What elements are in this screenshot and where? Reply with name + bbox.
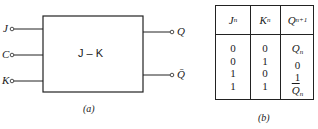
cell-qn1: Qn: [292, 42, 303, 59]
cell-qn1-bar-main: Q: [292, 84, 300, 96]
header-qn1: Qn+1: [280, 6, 315, 34]
input-label-k: K: [2, 75, 9, 86]
cell-kn: 0: [262, 42, 268, 55]
output-label-q-bar: Q̄: [177, 69, 185, 80]
cell-qn1-sub: n: [300, 48, 304, 56]
output-label-q: Q: [177, 26, 185, 37]
column-qn1: Qn 0 1 Qn: [280, 42, 315, 100]
cell-kn: 1: [262, 55, 268, 68]
cell-qn1-complement: Qn: [292, 84, 303, 101]
header-qn1-main: Q: [288, 14, 296, 26]
truth-table: Jn Kn Qn+1 0 0 1 1 0 1 0 1 Qn 0 1 Qn: [215, 5, 314, 100]
header-kn-main: K: [260, 14, 267, 26]
cell-kn: 1: [262, 80, 268, 93]
input-label-j: J: [3, 23, 8, 34]
column-jn: 0 0 1 1: [216, 42, 250, 92]
cell-qn1-bar-sub: n: [300, 90, 304, 98]
block-label: J – K: [78, 47, 103, 59]
cell-jn: 1: [230, 67, 236, 80]
cell-kn: 0: [262, 67, 268, 80]
caption-b: (b): [258, 112, 270, 123]
column-kn: 0 1 0 1: [250, 42, 280, 92]
header-jn: Jn: [216, 6, 250, 34]
header-jn-sub: n: [234, 16, 238, 24]
cell-qn1-main: Q: [292, 42, 300, 54]
header-divider: [216, 34, 313, 35]
header-kn: Kn: [250, 6, 280, 34]
diagram-lines: [0, 0, 210, 129]
cell-jn: 1: [230, 80, 236, 93]
cell-qn1: 0: [295, 59, 301, 72]
cell-jn: 0: [230, 42, 236, 55]
caption-a: (a): [83, 103, 95, 114]
cell-qn1: 1: [295, 71, 301, 84]
input-label-c: C: [2, 49, 9, 60]
header-kn-sub: n: [267, 16, 271, 24]
cell-jn: 0: [230, 55, 236, 68]
header-qn1-sub: n+1: [296, 16, 308, 24]
